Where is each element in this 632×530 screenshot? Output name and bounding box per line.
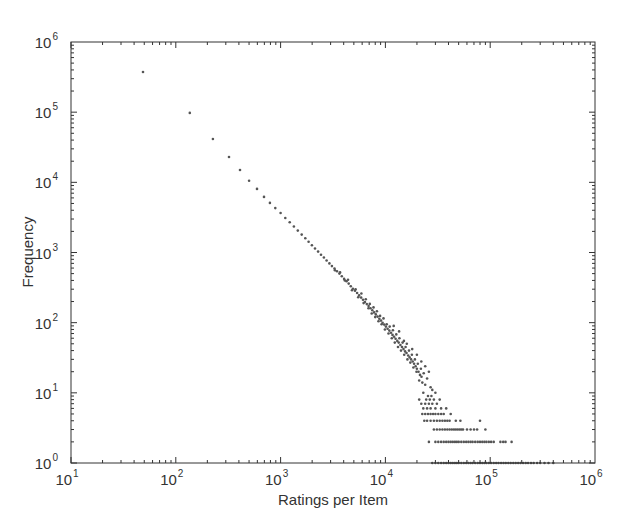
- data-point: [357, 296, 360, 299]
- data-point: [388, 325, 391, 328]
- data-point: [422, 407, 425, 410]
- data-point: [463, 441, 466, 444]
- data-point: [374, 316, 377, 319]
- y-axis-tick-labels: 100101102103104105106: [35, 31, 59, 472]
- data-point: [504, 441, 507, 444]
- data-point: [431, 402, 434, 405]
- data-point: [414, 358, 417, 361]
- data-point: [479, 420, 482, 423]
- data-point: [427, 395, 430, 398]
- x-tick-label: 105: [475, 468, 499, 488]
- data-point: [441, 428, 444, 431]
- data-point: [390, 331, 393, 334]
- data-point: [354, 288, 357, 291]
- data-point: [256, 188, 259, 191]
- data-point: [471, 441, 474, 444]
- data-point: [293, 225, 296, 228]
- data-point: [413, 362, 416, 365]
- data-point: [429, 407, 432, 410]
- data-point: [422, 392, 425, 395]
- x-tick-label: 103: [265, 468, 289, 488]
- data-point: [420, 360, 423, 363]
- data-point: [438, 428, 441, 431]
- data-point: [323, 256, 326, 259]
- data-point: [382, 317, 385, 320]
- data-point: [369, 303, 372, 306]
- data-point: [426, 420, 429, 423]
- data-point: [307, 241, 310, 244]
- data-point: [279, 212, 282, 215]
- data-point: [433, 420, 436, 423]
- data-point: [424, 365, 427, 368]
- data-point: [438, 420, 441, 423]
- data-point: [376, 315, 379, 318]
- data-point: [421, 413, 424, 416]
- data-point: [434, 441, 437, 444]
- data-point: [347, 282, 350, 285]
- data-point: [433, 428, 436, 431]
- data-point: [422, 372, 425, 375]
- data-point: [446, 428, 449, 431]
- data-point: [366, 303, 369, 306]
- data-point: [445, 441, 448, 444]
- data-point: [269, 202, 272, 205]
- y-axis-label: Frequency: [19, 216, 36, 287]
- data-point: [212, 138, 215, 141]
- data-point: [263, 196, 266, 199]
- data-point: [331, 265, 334, 268]
- data-point: [427, 413, 430, 416]
- data-point: [300, 233, 303, 236]
- data-point: [415, 370, 418, 373]
- data-point: [398, 337, 401, 340]
- data-point: [459, 420, 462, 423]
- data-point: [398, 330, 401, 333]
- data-point: [360, 292, 363, 295]
- data-point: [442, 441, 445, 444]
- data-point: [385, 323, 388, 326]
- data-point: [426, 377, 429, 380]
- data-point: [248, 180, 251, 183]
- data-point: [469, 428, 472, 431]
- axis-ticks: [71, 42, 595, 463]
- data-point: [426, 407, 429, 410]
- data-point: [423, 420, 426, 423]
- data-point: [402, 348, 405, 351]
- data-point: [380, 323, 383, 326]
- data-point: [479, 441, 482, 444]
- data-point: [440, 407, 443, 410]
- data-point: [462, 428, 465, 431]
- data-point: [142, 71, 145, 74]
- data-point: [372, 306, 375, 309]
- data-point: [380, 319, 383, 322]
- data-point: [425, 398, 428, 401]
- data-point: [367, 307, 370, 310]
- data-point: [492, 441, 495, 444]
- data-point: [428, 441, 431, 444]
- x-axis-tick-labels: 101102103104105106: [55, 468, 603, 488]
- data-point: [339, 271, 342, 274]
- y-tick-label: 102: [35, 312, 59, 332]
- data-point: [490, 441, 493, 444]
- data-point: [488, 441, 491, 444]
- data-point: [428, 402, 431, 405]
- data-point: [418, 379, 421, 382]
- data-point: [414, 365, 417, 368]
- x-tick-label: 106: [579, 468, 603, 488]
- data-point: [441, 420, 444, 423]
- data-point: [409, 361, 412, 364]
- data-point: [388, 329, 391, 332]
- x-tick-label: 104: [370, 468, 394, 488]
- data-point: [510, 441, 513, 444]
- y-tick-label: 101: [35, 382, 59, 402]
- data-point: [410, 358, 413, 361]
- data-point: [385, 325, 388, 328]
- data-point: [383, 323, 386, 326]
- data-point: [457, 441, 460, 444]
- data-point: [429, 420, 432, 423]
- data-point: [436, 428, 439, 431]
- data-point: [325, 259, 328, 262]
- data-point: [328, 262, 331, 265]
- data-point: [431, 389, 434, 392]
- data-point: [432, 413, 435, 416]
- data-point: [394, 337, 397, 340]
